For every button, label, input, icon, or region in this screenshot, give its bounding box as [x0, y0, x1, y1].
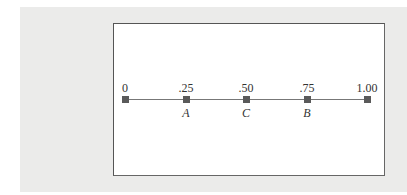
marker-100 — [364, 96, 371, 103]
tick-label-100: 1.00 — [357, 82, 378, 94]
marker-025 — [183, 96, 190, 103]
tick-label-050: .50 — [239, 82, 254, 94]
tick-label-0: 0 — [122, 82, 128, 94]
tick-label-025: .25 — [179, 82, 194, 94]
point-label-b: B — [303, 107, 310, 119]
marker-075 — [304, 96, 311, 103]
point-label-c: C — [242, 107, 250, 119]
point-label-a: A — [182, 107, 189, 119]
marker-0 — [122, 96, 129, 103]
marker-050 — [243, 96, 250, 103]
tick-label-075: .75 — [300, 82, 315, 94]
